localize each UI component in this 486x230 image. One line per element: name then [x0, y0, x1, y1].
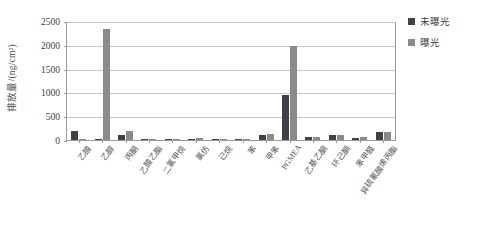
- x-axis-category-label: 甲苯: [263, 143, 281, 163]
- bar-unexposed: [165, 139, 172, 140]
- y-axis-tick-mark: [64, 46, 67, 47]
- y-axis-tick-mark: [64, 22, 67, 23]
- y-axis-tick-mark: [64, 141, 67, 142]
- bar-category-group: [208, 23, 231, 140]
- bar-exposed: [313, 137, 320, 140]
- y-axis-tick-mark: [64, 93, 67, 94]
- x-axis-category-label: 苯甲醛: [353, 143, 376, 169]
- x-axis-category-label: 氯仿: [192, 143, 210, 163]
- y-axis-tick-label: 0: [55, 136, 60, 146]
- bar-unexposed: [235, 139, 242, 140]
- legend-swatch-icon: [408, 18, 415, 25]
- bar-unexposed: [282, 95, 289, 140]
- bar-category-group: [90, 23, 113, 140]
- bar-unexposed: [118, 135, 125, 140]
- x-axis-category-label: 乙基乙酮: [301, 143, 329, 176]
- bar-unexposed: [376, 132, 383, 140]
- legend-item[interactable]: 未曝光: [408, 14, 450, 28]
- bar-category-group: [137, 23, 160, 140]
- bar-exposed: [126, 131, 133, 140]
- x-axis-category-label: PGMEA: [280, 143, 304, 172]
- bar-exposed: [360, 137, 367, 140]
- bar-unexposed: [71, 131, 78, 140]
- bar-category-group: [254, 23, 277, 140]
- y-axis-tick-mark: [64, 117, 67, 118]
- bar-exposed: [79, 139, 86, 140]
- x-axis-category-label: 二氯甲烷: [159, 143, 187, 176]
- bar-unexposed: [141, 139, 148, 140]
- bar-category-group: [278, 23, 301, 140]
- bar-category-group: [371, 23, 394, 140]
- plot-area: [66, 22, 396, 141]
- legend-label: 曝光: [420, 35, 440, 49]
- bar-category-group: [325, 23, 348, 140]
- bar-exposed: [267, 134, 274, 140]
- y-axis-tick-mark: [64, 70, 67, 71]
- bar-group-container: [67, 23, 395, 140]
- bar-exposed: [384, 132, 391, 140]
- bar-exposed: [243, 139, 250, 140]
- y-axis-tick-label: 1500: [41, 65, 60, 75]
- x-axis-category-label: 乙酸: [74, 143, 92, 163]
- x-axis-category-label: 乙醇: [98, 143, 116, 163]
- x-axis-category-label: 己烷: [216, 143, 234, 163]
- y-axis-tick-label: 500: [46, 112, 60, 122]
- bar-exposed: [337, 135, 344, 140]
- y-axis-title-text: 排放量/(ng/cm²): [4, 44, 18, 112]
- bar-unexposed: [352, 138, 359, 140]
- bar-exposed: [149, 139, 156, 140]
- bar-category-group: [114, 23, 137, 140]
- x-axis-category-label: 环己酮: [329, 143, 352, 169]
- y-axis-tick-labels: 05001000150020002500: [22, 22, 64, 141]
- x-axis-category-label: 苯: [244, 143, 258, 156]
- x-axis-category-label: 丙酮: [122, 143, 140, 163]
- legend-item[interactable]: 曝光: [408, 35, 450, 49]
- legend-label: 未曝光: [420, 14, 450, 28]
- x-axis-category-labels: 乙酸乙醇丙酮乙酸乙酯二氯甲烷氯仿己烷苯甲苯PGMEA乙基乙酮环己酮苯甲醛异硫氰酸…: [66, 143, 396, 228]
- bar-unexposed: [212, 139, 219, 140]
- bar-unexposed: [95, 139, 102, 140]
- bar-category-group: [301, 23, 324, 140]
- y-axis-tick-label: 1000: [41, 88, 60, 98]
- bar-exposed: [173, 139, 180, 140]
- bar-exposed: [196, 138, 203, 140]
- x-axis-category-label: 乙酸乙酯: [136, 143, 164, 176]
- bar-category-group: [161, 23, 184, 140]
- y-axis-tick-label: 2500: [41, 17, 60, 27]
- bar-unexposed: [329, 135, 336, 140]
- bar-category-group: [184, 23, 207, 140]
- bar-chart: 排放量/(ng/cm²) 05001000150020002500 乙酸乙醇丙酮…: [0, 0, 486, 230]
- bar-unexposed: [188, 139, 195, 140]
- bar-category-group: [231, 23, 254, 140]
- bar-category-group: [67, 23, 90, 140]
- chart-legend: 未曝光曝光: [408, 14, 450, 56]
- bar-exposed: [290, 46, 297, 140]
- legend-swatch-icon: [408, 39, 415, 46]
- y-axis-tick-label: 2000: [41, 41, 60, 51]
- bar-unexposed: [259, 135, 266, 140]
- bar-exposed: [220, 139, 227, 140]
- bar-unexposed: [305, 137, 312, 140]
- bar-exposed: [103, 29, 110, 140]
- bar-category-group: [348, 23, 371, 140]
- y-axis-title: 排放量/(ng/cm²): [2, 18, 20, 138]
